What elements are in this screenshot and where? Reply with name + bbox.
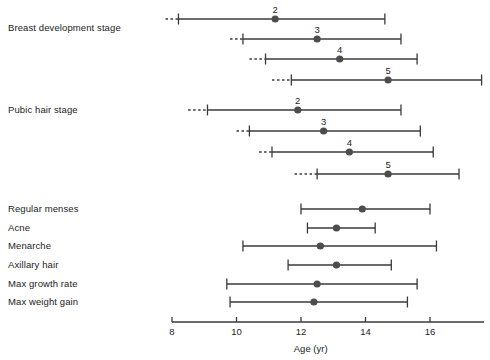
mean-marker xyxy=(333,224,340,231)
range-row-breast-stage-5 xyxy=(272,75,482,86)
range-row-event-1 xyxy=(307,223,375,234)
stage-number-pubic-2: 2 xyxy=(295,95,300,106)
x-tick-label-14: 14 xyxy=(360,326,371,337)
range-row-event-4 xyxy=(227,279,417,290)
mean-marker xyxy=(310,298,317,305)
puberty-timeline-chart: Breast development stage Pubic hair stag… xyxy=(0,0,490,360)
range-row-breast-stage-3 xyxy=(230,34,401,45)
range-row-pubic-stage-5 xyxy=(295,169,459,180)
range-row-breast-stage-2 xyxy=(166,14,385,25)
x-tick-label-8: 8 xyxy=(169,326,174,337)
event-label-1: Acne xyxy=(8,222,30,233)
x-tick-label-12: 12 xyxy=(296,326,307,337)
range-row-event-2 xyxy=(243,241,437,252)
range-row-event-5 xyxy=(230,297,407,308)
mean-marker xyxy=(384,76,391,83)
mean-marker xyxy=(336,55,343,62)
stage-number-breast-3: 3 xyxy=(314,24,319,35)
range-row-event-3 xyxy=(288,260,391,271)
event-label-0: Regular menses xyxy=(8,203,79,214)
event-label-3: Axillary hair xyxy=(8,259,58,270)
stage-number-pubic-5: 5 xyxy=(385,159,390,170)
range-row-breast-stage-4 xyxy=(249,54,417,65)
mean-marker xyxy=(384,170,391,177)
x-axis-title: Age (yr) xyxy=(294,343,328,354)
mean-marker xyxy=(359,205,366,212)
stage-number-breast-2: 2 xyxy=(273,4,278,15)
mean-marker xyxy=(314,35,321,42)
range-row-pubic-stage-4 xyxy=(259,147,433,158)
mean-marker xyxy=(294,106,301,113)
event-label-4: Max growth rate xyxy=(8,278,78,289)
event-label-5: Max weight gain xyxy=(8,296,78,307)
x-tick-label-16: 16 xyxy=(425,326,436,337)
range-row-pubic-stage-3 xyxy=(237,126,421,137)
stage-number-breast-4: 4 xyxy=(337,44,342,55)
mean-marker xyxy=(320,127,327,134)
range-row-pubic-stage-2 xyxy=(188,105,401,116)
x-tick-label-10: 10 xyxy=(231,326,242,337)
event-label-2: Menarche xyxy=(8,240,51,251)
mean-marker xyxy=(346,148,353,155)
stage-number-pubic-4: 4 xyxy=(347,137,352,148)
mean-marker xyxy=(333,261,340,268)
stage-number-pubic-3: 3 xyxy=(321,116,326,127)
stage-number-breast-5: 5 xyxy=(385,65,390,76)
range-row-event-0 xyxy=(301,204,430,215)
mean-marker xyxy=(317,242,324,249)
mean-marker xyxy=(314,280,321,287)
mean-marker xyxy=(272,15,279,22)
